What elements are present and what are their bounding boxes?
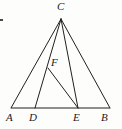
geometry-figure: C F A D E B xyxy=(0,0,122,129)
vertex-label-D: D xyxy=(29,112,37,123)
vertex-label-F: F xyxy=(51,57,58,68)
segment-FE xyxy=(48,68,78,108)
segment-cevian-CE xyxy=(61,19,78,108)
vertex-label-E: E xyxy=(73,112,80,123)
vertex-label-C: C xyxy=(57,1,64,12)
geometry-canvas xyxy=(0,0,122,129)
triangle-edges xyxy=(11,19,110,108)
vertex-label-B: B xyxy=(101,112,108,123)
vertex-label-A: A xyxy=(6,112,13,123)
scan-speck-mark xyxy=(0,19,3,21)
